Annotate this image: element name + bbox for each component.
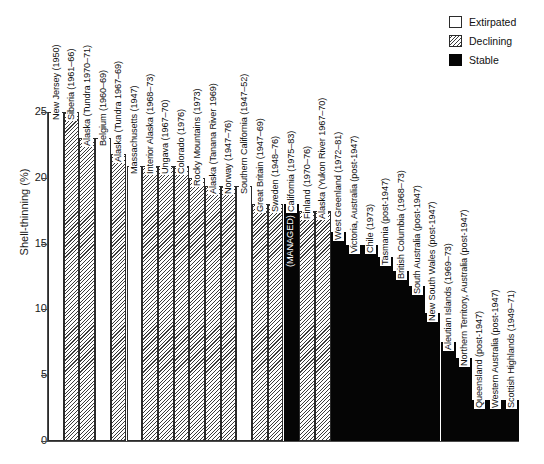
bar	[142, 166, 158, 441]
bar-category-label: West Greenland (1972–81)	[333, 130, 344, 240]
bar	[425, 313, 441, 441]
legend: ExtirpatedDecliningStable	[449, 12, 516, 69]
bar	[174, 166, 190, 441]
bar	[127, 166, 143, 441]
bar	[79, 138, 95, 441]
y-tick-mark	[41, 441, 47, 442]
bar-category-label: Queensland (post-1947)	[474, 310, 485, 409]
bar	[362, 245, 378, 441]
bar	[393, 271, 409, 441]
legend-label: Stable	[469, 54, 499, 66]
bar-category-label: New South Wales (post-1947)	[427, 201, 438, 323]
y-tick-mark	[41, 309, 47, 310]
bar-category-label: British Columbia (1968–73)	[396, 170, 407, 281]
bar-category-label: Alaska (Yukon River 1967–70)	[317, 96, 328, 219]
x-axis-line	[47, 441, 519, 442]
y-tick-mark	[41, 112, 47, 113]
bar-category-label: Southern California (1947–52)	[239, 72, 250, 194]
bar-category-label: Scottish Highlands (1949–71)	[506, 289, 517, 409]
plot-area: New Jersey (1950)Siberia (1961–66)Alaska…	[48, 112, 519, 441]
bar	[221, 186, 237, 441]
bar-category-label: Tasmania (post-1947)	[380, 177, 391, 266]
bar	[378, 257, 394, 441]
bar-category-label: Sweden (1948–76)	[270, 135, 281, 213]
bar-category-label: Ungava (1967–70)	[160, 98, 171, 175]
bar-category-label: Finland (1970–76)	[302, 145, 313, 220]
legend-item: Declining	[449, 31, 516, 50]
shell-thinning-bar-chart: Shell-thinning (%) 0510152025 New Jersey…	[0, 0, 544, 464]
bar-category-label: Aleutian Islands (1969–73)	[443, 243, 454, 352]
bar-category-label: South Australia (post-1947)	[412, 184, 423, 295]
bar	[409, 286, 425, 441]
bar	[205, 186, 221, 441]
y-tick-mark	[41, 178, 47, 179]
legend-swatch-extirpated	[449, 16, 462, 28]
bar	[346, 245, 362, 441]
bar-category-label: Western Australia (post-1947)	[490, 289, 501, 409]
legend-swatch-stable	[449, 54, 462, 66]
bar-category-label: New Jersey (1950)	[51, 44, 62, 121]
bar	[236, 186, 252, 441]
legend-swatch-declining	[449, 35, 462, 47]
bar	[315, 211, 331, 441]
bar-category-label: Norway (1947–76)	[223, 119, 234, 195]
bar	[111, 154, 127, 441]
bar	[331, 232, 347, 441]
bar-category-label: Interior Alaska (1968–73)	[145, 73, 156, 175]
bar-category-label: Colorado (1976)	[176, 108, 187, 175]
y-axis-title: Shell-thinning (%)	[18, 122, 30, 302]
bar	[48, 112, 64, 441]
bar	[268, 204, 284, 441]
bar-category-label: Alaska (Tundra 1970–71)	[82, 44, 93, 147]
bar-category-label: California (1975–83)	[286, 130, 297, 213]
bar-category-label: Great Britain (1947–69)	[255, 117, 266, 213]
legend-label: Extirpated	[469, 16, 516, 28]
bar-category-label: Belgium (1960–69)	[98, 69, 109, 147]
bar-category-label: Massachusetts (1947)	[129, 85, 140, 175]
bar-category-label: Siberia (1961–66)	[66, 48, 77, 121]
bar-category-label: Victoria, Australia (post-1947)	[349, 135, 360, 254]
bar	[95, 138, 111, 441]
bar	[441, 342, 457, 441]
bar-category-label: Alaska (Tanana River 1969)	[208, 82, 219, 195]
bar-category-label: Alaska (Tundra 1967–69)	[113, 60, 124, 163]
bar	[252, 204, 268, 441]
legend-label: Declining	[469, 35, 512, 47]
bar-annotation: (MANAGED)	[285, 215, 296, 267]
bar	[299, 211, 315, 441]
y-tick-mark	[41, 375, 47, 376]
bar-category-label: Rocky Mountains (1973)	[192, 87, 203, 186]
bar	[456, 358, 472, 441]
bar	[189, 178, 205, 441]
bar	[64, 112, 80, 441]
legend-item: Stable	[449, 50, 516, 69]
bar-category-label: Chile (1973)	[365, 203, 376, 254]
bar-category-label: Northern Territory, Australia (post-1947…	[459, 209, 470, 367]
y-tick-mark	[41, 244, 47, 245]
bar	[158, 166, 174, 441]
legend-item: Extirpated	[449, 12, 516, 31]
